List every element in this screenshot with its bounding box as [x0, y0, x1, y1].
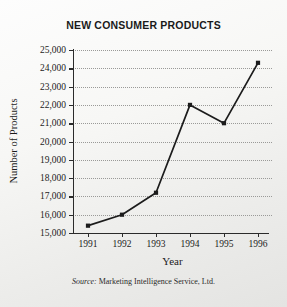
series-line [88, 63, 258, 226]
data-point-1994 [188, 103, 192, 107]
x-axis-tick-label: 1992 [113, 239, 132, 249]
x-axis-tick-label: 1993 [147, 239, 166, 249]
y-axis-tick-label: 24,000 [40, 63, 66, 73]
source-label: Source: [72, 277, 97, 286]
series-markers [86, 61, 260, 228]
source-text: Marketing Intelligence Service, Ltd. [97, 277, 215, 286]
x-axis-line [73, 233, 269, 234]
source-note: Source: Marketing Intelligence Service, … [0, 277, 287, 286]
y-axis-tick-label: 15,000 [40, 228, 66, 238]
data-point-1992 [120, 213, 124, 217]
x-axis-title: Year [73, 255, 272, 267]
y-axis-tick-label: 21,000 [40, 118, 66, 128]
y-axis-tick-label: 23,000 [40, 82, 66, 92]
data-point-1996 [256, 61, 260, 65]
y-axis-tick-label: 25,000 [40, 45, 66, 55]
y-axis-tick-label: 16,000 [40, 210, 66, 220]
y-axis-tick-label: 19,000 [40, 155, 66, 165]
chart-title: NEW CONSUMER PRODUCTS [0, 19, 287, 31]
y-axis-title: Number of Products [8, 98, 19, 183]
x-axis-tick-label: 1996 [249, 239, 268, 249]
data-series [73, 50, 272, 233]
y-axis-tick-label: 18,000 [40, 173, 66, 183]
data-point-1991 [86, 224, 90, 228]
y-axis-tick-label: 22,000 [40, 100, 66, 110]
data-point-1995 [222, 121, 226, 125]
data-point-1993 [154, 191, 158, 195]
x-axis-tick-label: 1994 [181, 239, 200, 249]
x-axis-tick-label: 1991 [79, 239, 98, 249]
line-chart-figure: NEW CONSUMER PRODUCTS 15,00016,00017,000… [0, 0, 287, 307]
plot-area: 15,00016,00017,00018,00019,00020,00021,0… [73, 50, 272, 233]
y-axis-tick-label: 17,000 [40, 191, 66, 201]
y-axis-tick-label: 20,000 [40, 137, 66, 147]
x-axis-tick-label: 1995 [215, 239, 234, 249]
